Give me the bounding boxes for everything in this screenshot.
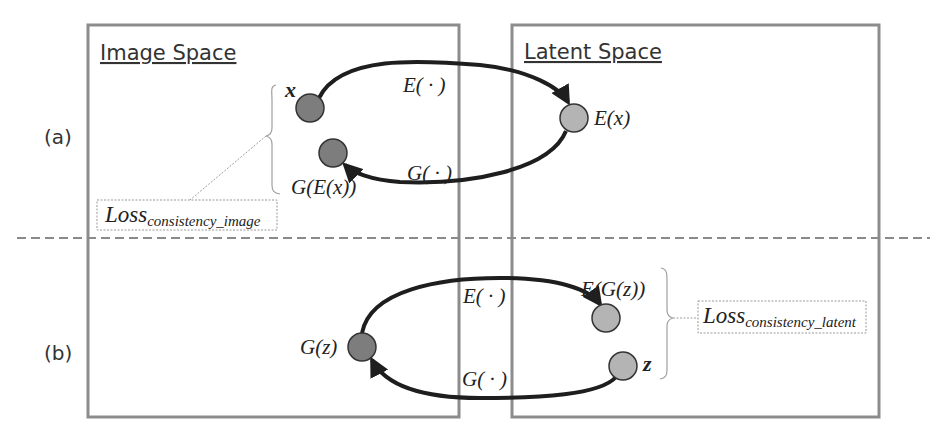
brace-b — [660, 268, 673, 379]
row-a-label: (a) — [44, 125, 72, 149]
label-gz: G(z) — [300, 335, 337, 359]
generator-arrow-a — [345, 131, 566, 182]
node-gex — [319, 139, 347, 167]
node-egz — [592, 304, 620, 332]
image-space-title: Image Space — [100, 41, 236, 65]
node-x — [296, 94, 324, 122]
label-generator-a: G( · ) — [407, 161, 452, 185]
loss-a-connector — [190, 136, 266, 200]
label-encoder-b: E( · ) — [462, 284, 506, 308]
label-x: x — [284, 77, 296, 102]
brace-a — [266, 85, 280, 194]
label-z: z — [642, 351, 652, 376]
node-z — [609, 352, 637, 380]
diagram-canvas: Image Space Latent Space (a) (b) x E(x) … — [0, 0, 947, 434]
node-gz — [348, 333, 376, 361]
label-generator-b: G( · ) — [462, 367, 507, 391]
label-gex: G(E(x)) — [291, 175, 356, 199]
latent-space-panel — [512, 25, 879, 417]
node-ex — [560, 104, 588, 132]
label-ex: E(x) — [593, 106, 630, 130]
label-egz: E(G(z)) — [580, 277, 645, 301]
latent-space-title: Latent Space — [524, 40, 662, 64]
label-encoder-a: E( · ) — [402, 73, 446, 97]
row-b-label: (b) — [44, 341, 72, 365]
